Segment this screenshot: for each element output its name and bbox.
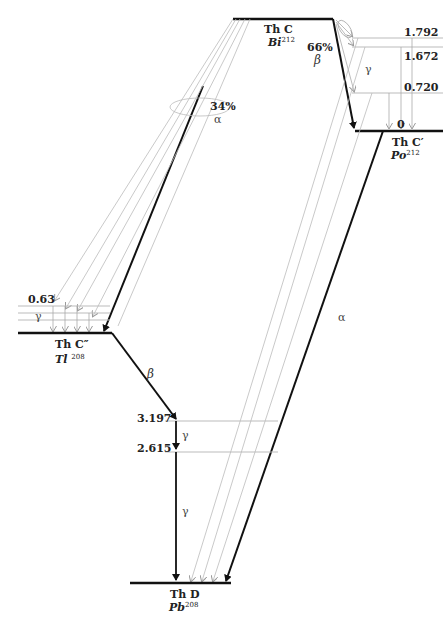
gamma-label-thc-prime: γ <box>365 64 372 75</box>
alpha-arrow-thc-prime-to-thd <box>226 131 383 581</box>
level-0: 0 <box>397 119 405 130</box>
levels-thc-dprime-excited <box>18 306 110 320</box>
alpha-label-thc-prime: α <box>338 312 345 323</box>
alpha-arrow-thc-to-thc-dprime <box>104 86 203 331</box>
thc-prime-name: Th C′ <box>392 137 424 148</box>
gamma-label-thd-2: γ <box>182 506 189 517</box>
level-0720: 0.720 <box>404 82 438 93</box>
thc-prime-symbol: Po212 <box>391 150 420 161</box>
thc-symbol: Bi212 <box>268 37 295 48</box>
thd-name: Th D <box>170 589 200 600</box>
level-063: 0.63 <box>28 294 55 305</box>
beta-branch-symbol: β <box>314 54 321 66</box>
level-3197: 3.197 <box>137 413 171 424</box>
gamma-lines-thc-dprime <box>53 306 89 331</box>
alpha-branch-symbol: α <box>214 114 221 125</box>
alpha-thin-thc-to-thc-dprime <box>55 19 250 326</box>
beta-branch-percent: 66% <box>307 42 333 53</box>
level-1672: 1.672 <box>404 51 438 62</box>
level-1792: 1.792 <box>404 27 438 38</box>
alpha-branch-percent: 34% <box>210 101 236 112</box>
thd-symbol: Pb208 <box>169 602 198 613</box>
thc-name: Th C <box>264 24 293 35</box>
level-2615: 2.615 <box>137 443 171 454</box>
thc-dprime-name: Th C″ <box>55 339 89 350</box>
thc-dprime-symbol: Tl 208 <box>55 354 85 365</box>
decay-scheme-diagram <box>0 0 443 619</box>
gamma-label-thd-1: γ <box>182 430 189 441</box>
gamma-label-thc-dprime: γ <box>35 311 42 322</box>
beta-label-thc-dprime: β <box>147 368 154 380</box>
beta-arrow-thc-dprime-to-thd <box>112 333 176 419</box>
